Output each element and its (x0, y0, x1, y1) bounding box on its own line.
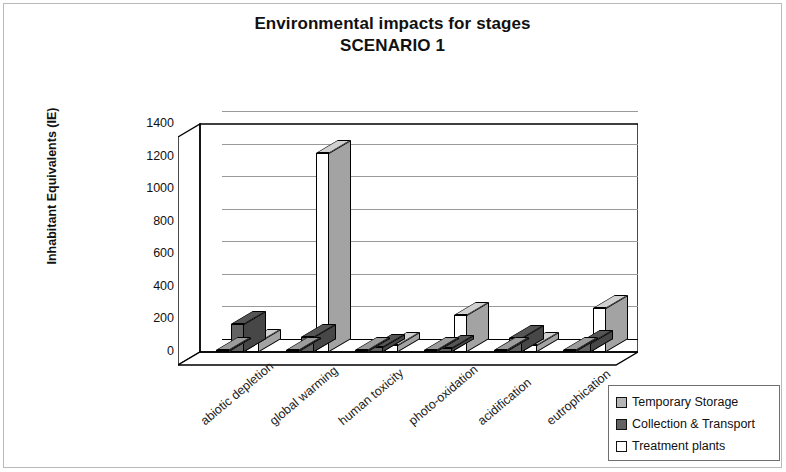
y-tick-label: 1000 (128, 181, 174, 195)
bar (316, 153, 329, 352)
legend-swatch-icon (616, 441, 627, 452)
legend-item[interactable]: Collection & Transport (616, 413, 773, 435)
y-tick-label: 1400 (128, 116, 174, 130)
y-tick-label: 0 (128, 344, 174, 358)
bar-front-face (286, 350, 299, 352)
y-tick-label: 1200 (128, 149, 174, 163)
chart-legend: Temporary StorageCollection & TransportT… (608, 385, 780, 461)
chart-title-block: Environmental impacts for stages SCENARI… (4, 13, 781, 57)
bar (216, 350, 229, 352)
x-tick-label: acidification (475, 375, 534, 428)
legend-label: Temporary Storage (632, 395, 738, 409)
chart-subtitle: SCENARIO 1 (4, 35, 781, 57)
legend-label: Treatment plants (632, 439, 725, 453)
legend-item[interactable]: Temporary Storage (616, 391, 773, 413)
legend-swatch-icon (616, 419, 627, 430)
bar-front-face (355, 350, 368, 352)
bar-front-face (424, 350, 437, 352)
bar-series-group (200, 124, 616, 352)
bar-side-face (329, 140, 351, 352)
y-axis-title: Inhabitant Equivalents (IE) (45, 79, 59, 294)
y-tick-label: 200 (128, 311, 174, 325)
chart-frame: Environmental impacts for stages SCENARI… (3, 3, 782, 468)
bar-front-face (316, 153, 329, 352)
bar-front-face (494, 350, 507, 352)
bar (563, 350, 576, 352)
legend-label: Collection & Transport (632, 417, 755, 431)
legend-swatch-icon (616, 397, 627, 408)
chart-title: Environmental impacts for stages (4, 13, 781, 35)
bar-front-face (563, 350, 576, 352)
y-tick-label: 600 (128, 246, 174, 260)
y-tick-label: 400 (128, 279, 174, 293)
bar-front-face (216, 350, 229, 352)
bar (286, 350, 299, 352)
y-tick-label: 800 (128, 214, 174, 228)
legend-item[interactable]: Treatment plants (616, 435, 773, 457)
gridline (222, 111, 638, 112)
bar (494, 350, 507, 352)
bar (355, 350, 368, 352)
plot-area (200, 124, 616, 352)
bar (424, 350, 437, 352)
